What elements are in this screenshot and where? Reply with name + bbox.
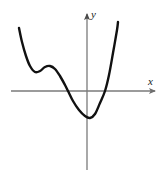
polynomial-graph-svg	[0, 0, 164, 176]
y-axis-label: y	[91, 9, 96, 20]
curve-group	[19, 22, 118, 118]
polynomial-curve	[19, 22, 118, 118]
x-axis-label: x	[148, 76, 153, 87]
graph-figure: x y	[0, 0, 164, 176]
axes-group	[11, 14, 155, 170]
